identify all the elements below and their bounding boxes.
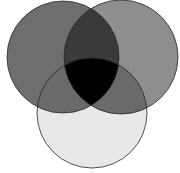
venn-diagram [0,0,180,173]
